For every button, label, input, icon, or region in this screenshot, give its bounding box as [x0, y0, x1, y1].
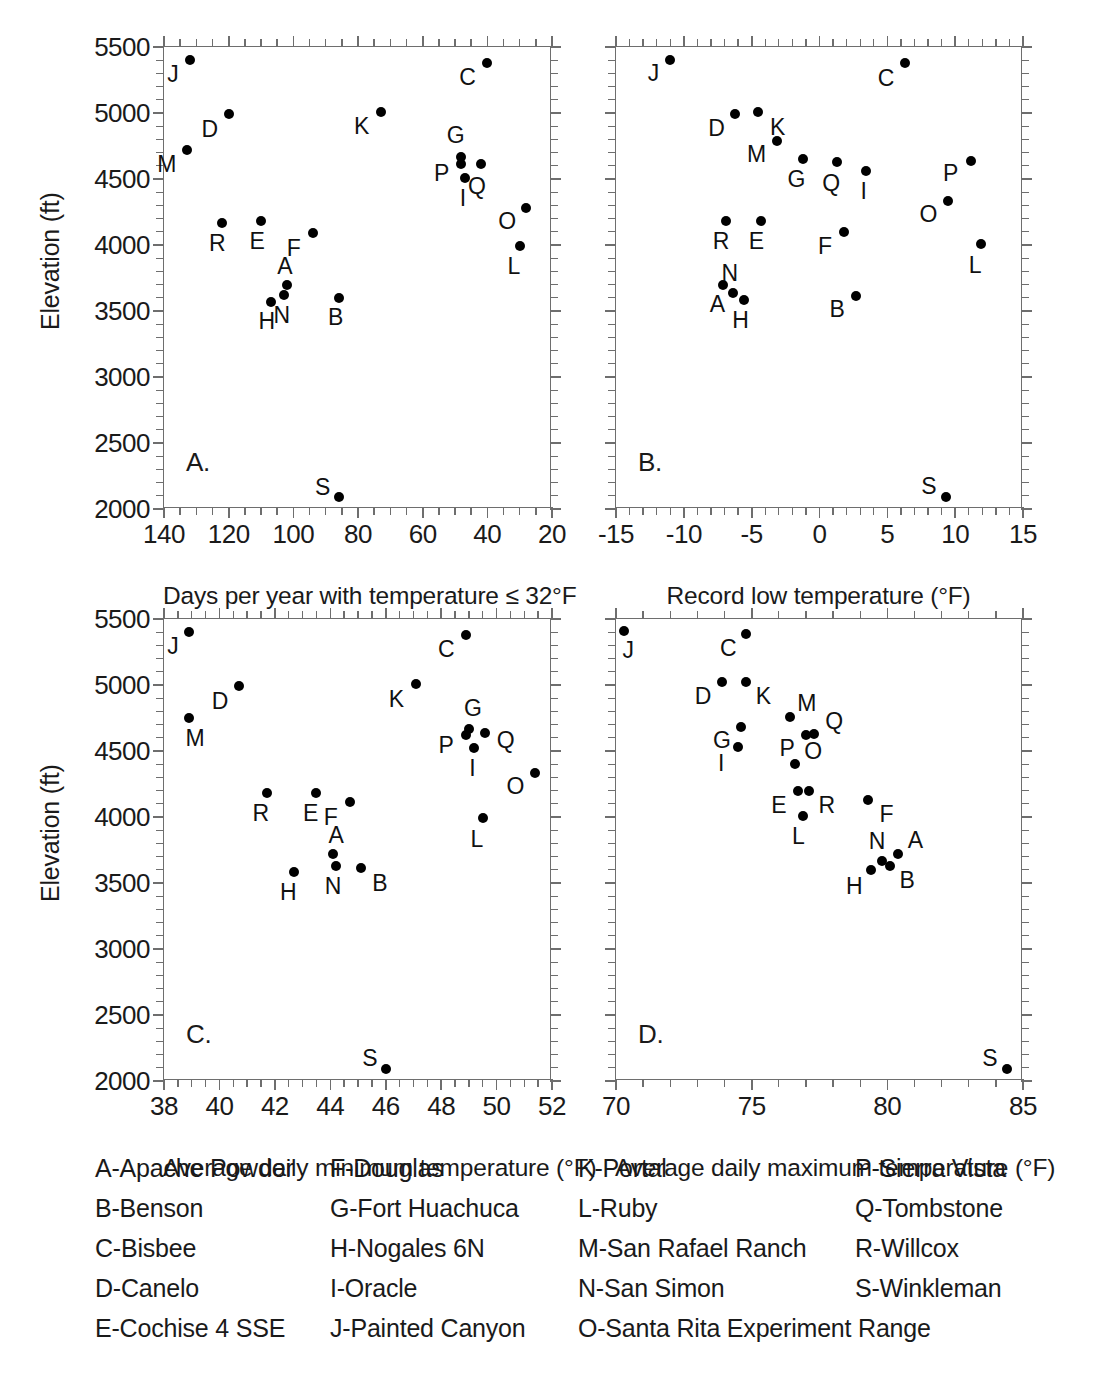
data-point-label: C — [720, 636, 736, 659]
x-tick — [765, 507, 766, 515]
panel-letter: A. — [186, 447, 210, 478]
legend-item: C-Bisbee — [95, 1228, 294, 1268]
x-tick-top — [968, 39, 969, 47]
x-tick-top — [629, 39, 630, 47]
x-tick-top — [413, 611, 414, 619]
x-tick-top — [487, 36, 489, 47]
x-tick — [1022, 1079, 1024, 1090]
data-point-label: E — [771, 793, 786, 816]
y-tick — [608, 843, 616, 844]
y-tick — [608, 403, 616, 404]
x-tick-top — [724, 611, 725, 619]
legend-item: B-Benson — [95, 1188, 294, 1228]
x-tick — [670, 507, 671, 515]
x-tick-top — [341, 39, 342, 47]
data-point — [334, 293, 344, 303]
y-tick-right — [550, 711, 558, 712]
x-tick — [274, 1079, 276, 1090]
y-tick — [156, 337, 164, 338]
y-tick — [156, 456, 164, 457]
y-tick-right — [550, 1067, 558, 1068]
y-tick-right — [550, 869, 558, 870]
y-tick — [156, 658, 164, 659]
x-tick-top — [968, 611, 969, 619]
y-tick-right — [550, 922, 558, 923]
y-tick-right — [1021, 724, 1029, 725]
y-tick-right — [550, 816, 561, 818]
data-point-label: R — [252, 802, 268, 825]
data-point — [893, 849, 903, 859]
y-tick — [156, 482, 164, 483]
y-tick — [156, 962, 164, 963]
y-tick — [608, 126, 616, 127]
x-tick — [995, 1079, 996, 1087]
y-tick-right — [550, 126, 558, 127]
data-point — [728, 288, 738, 298]
x-tick — [656, 507, 657, 515]
y-tick-right — [550, 1028, 558, 1029]
data-point — [832, 157, 842, 167]
x-tick — [941, 1079, 942, 1087]
data-point — [619, 626, 629, 636]
x-tick-label: 40 — [473, 519, 501, 550]
y-tick-right — [1021, 403, 1029, 404]
data-point-label: F — [818, 234, 832, 257]
x-tick — [244, 507, 245, 515]
y-tick-right — [550, 830, 558, 831]
y-tick-right — [550, 284, 558, 285]
y-tick — [608, 724, 616, 725]
x-tick-top — [615, 36, 617, 47]
data-point-label: I — [460, 186, 466, 209]
y-tick-label: 5000 — [94, 670, 150, 701]
y-tick-label: 3000 — [94, 362, 150, 393]
x-tick-top — [535, 39, 536, 47]
x-tick-top — [503, 39, 504, 47]
y-tick-right — [1021, 482, 1029, 483]
x-tick — [535, 507, 536, 515]
x-tick-top — [805, 611, 806, 619]
y-tick-right — [1021, 750, 1032, 752]
y-tick — [156, 698, 164, 699]
y-tick-right — [550, 790, 558, 791]
y-tick — [156, 218, 164, 219]
data-point-label: F — [324, 806, 338, 829]
data-point — [530, 768, 540, 778]
y-tick — [156, 843, 164, 844]
station-key-legend: A-Apache PowderB-BensonC-BisbeeD-CaneloE… — [0, 1148, 1105, 1391]
legend-column: A-Apache PowderB-BensonC-BisbeeD-CaneloE… — [95, 1148, 294, 1348]
x-tick — [487, 507, 489, 518]
data-point — [863, 795, 873, 805]
x-tick — [276, 507, 277, 515]
x-tick-top — [177, 611, 178, 619]
y-tick-label: 4000 — [94, 802, 150, 833]
y-tick — [608, 350, 616, 351]
y-tick-right — [550, 988, 558, 989]
x-tick — [205, 1079, 206, 1087]
data-point — [851, 291, 861, 301]
x-tick — [900, 507, 901, 515]
plot-area: 2000250030003500400045005000550038404244… — [163, 618, 551, 1080]
data-point-label: I — [861, 180, 867, 203]
y-tick-right — [1021, 165, 1029, 166]
y-tick-right — [550, 60, 558, 61]
plot-area: -15-10-5051015ABCDEFGHIJKLMNOPQRSB. — [615, 46, 1022, 508]
x-tick-label: 85 — [1009, 1091, 1037, 1122]
y-tick-right — [1021, 376, 1032, 378]
x-tick-top — [642, 611, 643, 619]
data-point-label: P — [779, 737, 794, 760]
y-tick-right — [550, 469, 558, 470]
legend-item: G-Fort Huachuca — [330, 1188, 526, 1228]
data-point-label: G — [713, 729, 731, 752]
y-tick — [608, 764, 616, 765]
data-point — [461, 730, 471, 740]
x-tick — [399, 1079, 400, 1087]
y-tick — [153, 816, 164, 818]
data-point-label: D — [212, 690, 228, 713]
y-tick — [608, 165, 616, 166]
data-point-label: R — [713, 230, 729, 253]
y-tick-right — [1021, 442, 1032, 444]
y-tick-right — [1021, 909, 1029, 910]
y-tick — [608, 284, 616, 285]
y-tick-right — [550, 376, 561, 378]
x-tick — [615, 507, 617, 518]
